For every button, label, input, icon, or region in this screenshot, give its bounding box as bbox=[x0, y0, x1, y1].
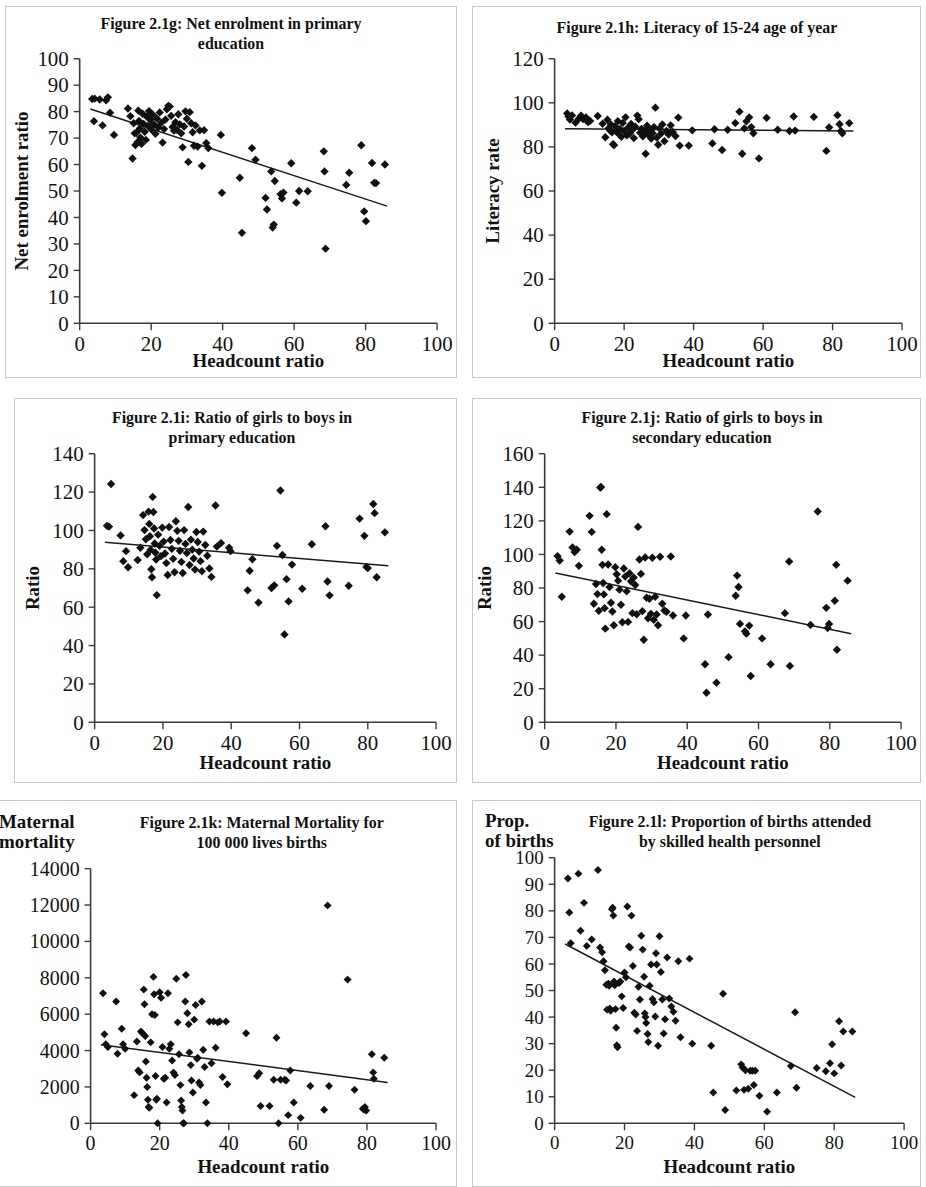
scatter-point bbox=[203, 552, 211, 560]
scatter-point bbox=[119, 557, 127, 565]
scatter-point bbox=[732, 1086, 740, 1094]
scatter-point bbox=[158, 523, 166, 531]
scatter-point bbox=[194, 538, 202, 546]
y-axis-tick-label: 60 bbox=[525, 954, 544, 975]
scatter-point bbox=[198, 567, 206, 575]
scatter-point bbox=[661, 1015, 669, 1023]
x-axis-tick-label: 80 bbox=[822, 332, 843, 356]
y-axis-tick-label: 20 bbox=[48, 259, 69, 283]
scatter-point bbox=[126, 112, 134, 120]
scatter-point bbox=[685, 141, 693, 149]
scatter-series bbox=[563, 103, 853, 162]
scatter-point bbox=[362, 217, 370, 225]
scatter-point bbox=[182, 971, 190, 979]
scatter-point bbox=[718, 146, 726, 154]
scatter-point bbox=[180, 1119, 188, 1127]
scatter-point bbox=[791, 1008, 799, 1016]
x-axis-tick-label: 20 bbox=[614, 332, 635, 356]
scatter-point bbox=[651, 103, 659, 111]
scatter-point bbox=[148, 573, 156, 581]
x-axis-tick-label: 80 bbox=[357, 731, 378, 755]
scatter-point bbox=[211, 501, 219, 509]
scatter-point bbox=[839, 1027, 847, 1035]
scatter-point bbox=[187, 1061, 195, 1069]
scatter-point bbox=[588, 528, 596, 536]
scatter-point bbox=[669, 611, 677, 619]
scatter-point bbox=[830, 1069, 838, 1077]
scatter-series bbox=[88, 93, 389, 253]
scatter-point bbox=[734, 583, 742, 591]
scatter-point bbox=[321, 245, 329, 253]
y-axis-tick-label: 0 bbox=[70, 1112, 80, 1134]
scatter-point bbox=[648, 554, 656, 562]
scatter-point bbox=[686, 955, 694, 963]
scatter-point bbox=[763, 1108, 771, 1116]
scatter-point bbox=[202, 1098, 210, 1106]
scatter-point bbox=[163, 1098, 171, 1106]
scatter-point bbox=[701, 660, 709, 668]
scatter-point bbox=[192, 528, 200, 536]
scatter-point bbox=[273, 542, 281, 550]
scatter-point bbox=[345, 169, 353, 177]
y-axis-tick-label: 0 bbox=[534, 1113, 543, 1134]
y-axis-tick-label: 14000 bbox=[30, 858, 80, 880]
scatter-point bbox=[177, 558, 185, 566]
scatter-point bbox=[174, 110, 182, 118]
y-axis-tick-label: 100 bbox=[37, 47, 68, 71]
scatter-point bbox=[599, 579, 607, 587]
scatter-point bbox=[674, 113, 682, 121]
scatter-point bbox=[292, 198, 300, 206]
x-axis-tick-label: 80 bbox=[819, 731, 840, 755]
scatter-point bbox=[342, 181, 350, 189]
x-axis-tick-label: 0 bbox=[549, 332, 559, 356]
scatter-point bbox=[306, 1082, 314, 1090]
scatter-point bbox=[118, 1025, 126, 1033]
scatter-point bbox=[837, 1061, 845, 1069]
scatter-point bbox=[639, 946, 647, 954]
scatter-point bbox=[710, 125, 718, 133]
scatter-chart-2-1g: Figure 2.1g: Net enrolment in primaryedu… bbox=[6, 7, 456, 377]
scatter-point bbox=[124, 104, 132, 112]
y-axis-tick-label: 80 bbox=[48, 100, 69, 124]
scatter-point bbox=[321, 522, 329, 530]
x-axis-tick-label: 100 bbox=[885, 731, 916, 755]
scatter-point bbox=[180, 526, 188, 534]
scatter-point bbox=[222, 1017, 230, 1025]
scatter-point bbox=[747, 672, 755, 680]
scatter-point bbox=[223, 1080, 231, 1088]
scatter-point bbox=[604, 560, 612, 568]
scatter-point bbox=[822, 147, 830, 155]
scatter-point bbox=[290, 1098, 298, 1106]
scatter-point bbox=[601, 133, 609, 141]
y-axis-tick-label: 40 bbox=[48, 206, 69, 230]
scatter-point bbox=[612, 1024, 620, 1032]
scatter-point bbox=[142, 1057, 150, 1065]
scatter-point bbox=[828, 1040, 836, 1048]
scatter-point bbox=[147, 565, 155, 573]
scatter-point bbox=[355, 514, 363, 522]
scatter-point bbox=[107, 480, 115, 488]
scatter-point bbox=[607, 599, 615, 607]
scatter-point bbox=[755, 1092, 763, 1100]
chart-title-line: education bbox=[198, 35, 264, 52]
scatter-point bbox=[724, 653, 732, 661]
scatter-point bbox=[168, 545, 176, 553]
y-axis-tick-label: 60 bbox=[48, 153, 69, 177]
scatter-point bbox=[652, 949, 660, 957]
scatter-point bbox=[282, 575, 290, 583]
scatter-point bbox=[785, 557, 793, 565]
scatter-point bbox=[791, 126, 799, 134]
scatter-point bbox=[619, 1004, 627, 1012]
scatter-point bbox=[184, 503, 192, 511]
scatter-point bbox=[702, 689, 710, 697]
scatter-point bbox=[195, 547, 203, 555]
scatter-point bbox=[688, 1040, 696, 1048]
scatter-point bbox=[320, 147, 328, 155]
x-axis-tick-label: 0 bbox=[74, 332, 84, 356]
scatter-point bbox=[640, 636, 648, 644]
scatter-point bbox=[644, 1038, 652, 1046]
scatter-point bbox=[270, 1076, 278, 1084]
scatter-point bbox=[90, 117, 98, 125]
scatter-point bbox=[831, 597, 839, 605]
scatter-point bbox=[843, 576, 851, 584]
